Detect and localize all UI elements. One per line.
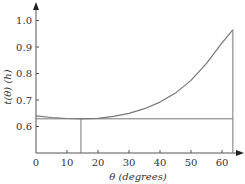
y-tick-label: 0.9	[16, 42, 32, 53]
y-tick-label: 0.6	[16, 121, 32, 132]
y-tick-label: 0.7	[16, 95, 32, 106]
x-tick-label: 20	[92, 157, 105, 168]
x-tick-label: 0	[33, 157, 39, 168]
x-tick-label: 30	[123, 157, 136, 168]
x-tick-label: 40	[154, 157, 167, 168]
time-curve	[36, 30, 233, 119]
x-tick-label: 60	[216, 157, 229, 168]
chart: 0.60.70.80.91.00102030405060 θ (degrees)…	[0, 0, 245, 184]
x-axis-label: θ (degrees)	[109, 171, 167, 182]
y-tick-label: 1.0	[16, 15, 32, 26]
x-axis-arrow-icon	[236, 150, 244, 156]
y-axis-label: t(θ) (h)	[2, 69, 13, 104]
x-tick-label: 50	[185, 157, 198, 168]
y-tick-label: 0.8	[16, 68, 32, 79]
plot-area	[36, 30, 233, 153]
y-axis-arrow-icon	[33, 2, 39, 10]
axes: 0.60.70.80.91.00102030405060	[16, 2, 244, 168]
x-tick-label: 10	[61, 157, 74, 168]
